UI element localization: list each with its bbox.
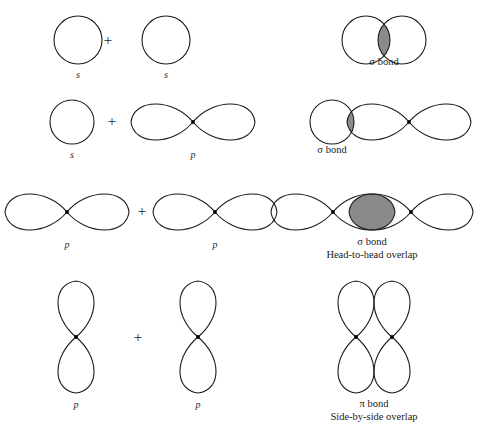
caption-row-3: σ bond Head-to-head overlap — [272, 236, 472, 261]
row-p-plus-p-head: p + p — [0, 180, 479, 275]
s-orbital-icon — [48, 98, 96, 146]
orbital-p-left-3 — [2, 186, 132, 238]
plus-sign-1: + — [100, 33, 116, 48]
row-p-plus-p-side: p + p — [0, 278, 479, 447]
pi-bond-p-p-result — [330, 278, 418, 396]
caption-row-2-line1: σ bond — [317, 144, 346, 155]
orbital-label-s-right-1: s — [146, 70, 186, 80]
s-orbital-icon — [140, 14, 192, 66]
orbital-s-left-2 — [48, 98, 96, 146]
caption-row-2: σ bond — [232, 144, 432, 157]
caption-row-3-line2: Head-to-head overlap — [272, 249, 472, 262]
orbital-p-right-4 — [172, 278, 224, 396]
row-s-plus-p: s + p σ bond — [0, 88, 479, 173]
pi-overlap-icon — [330, 278, 418, 396]
sigma-bond-s-p-result — [306, 96, 474, 148]
orbital-overlap-figure: s + s σ bond — [0, 0, 479, 447]
orbital-p-left-4 — [50, 278, 102, 396]
caption-row-4-line1: π bond — [360, 398, 389, 409]
row-s-plus-s: s + s σ bond — [0, 0, 479, 85]
p-orbital-horizontal-icon — [150, 186, 280, 238]
s-orbital-icon — [52, 14, 104, 66]
caption-row-3-line1: σ bond — [357, 236, 386, 247]
orbital-label-p-left-3: p — [47, 240, 87, 250]
sigma-overlap-icon — [306, 96, 474, 148]
orbital-p-right-3 — [150, 186, 280, 238]
p-orbital-vertical-icon — [50, 278, 102, 396]
sigma-overlap-icon — [268, 186, 476, 238]
plus-sign-2: + — [104, 114, 120, 129]
p-orbital-horizontal-icon — [128, 96, 258, 148]
orbital-label-s-left-1: s — [58, 70, 98, 80]
orbital-label-p-left-4: p — [56, 400, 96, 410]
orbital-label-s-left-2: s — [52, 150, 92, 160]
orbital-label-p-right-2: p — [173, 150, 213, 160]
orbital-p-right-2 — [128, 96, 258, 148]
p-orbital-horizontal-icon — [2, 186, 132, 238]
plus-sign-3: + — [134, 204, 150, 219]
p-orbital-vertical-icon — [172, 278, 224, 396]
plus-sign-4: + — [130, 330, 146, 345]
sigma-bond-p-p-result — [268, 186, 476, 238]
orbital-label-p-right-4: p — [178, 400, 218, 410]
orbital-s-left-1 — [52, 14, 104, 66]
orbital-s-right-1 — [140, 14, 192, 66]
caption-row-1-line1: σ bond — [369, 56, 398, 67]
orbital-label-p-right-3: p — [195, 240, 235, 250]
caption-row-4-line2: Side-by-side overlap — [274, 411, 474, 424]
caption-row-4: π bond Side-by-side overlap — [274, 398, 474, 423]
caption-row-1: σ bond — [284, 56, 479, 69]
